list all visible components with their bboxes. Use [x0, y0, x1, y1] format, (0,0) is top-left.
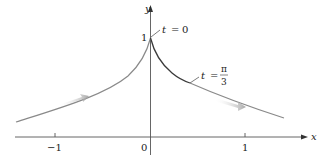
- y-tick-label-1: 1: [141, 32, 147, 43]
- x-axis-label: x: [311, 131, 317, 142]
- x-tick-label-neg1: −1: [47, 142, 62, 153]
- svg-text:t: t: [162, 24, 167, 35]
- curve-left-branch: [16, 38, 151, 122]
- svg-text:π: π: [221, 64, 227, 74]
- svg-text:=: =: [171, 24, 179, 35]
- svg-text:=: =: [210, 70, 218, 81]
- svg-text:3: 3: [221, 77, 227, 87]
- leader-tpi3: [190, 77, 199, 83]
- parametric-curve-diagram: y x 1 −1 1 0 t = 0 t = π 3: [0, 0, 334, 164]
- direction-arrow-right-icon: [214, 98, 246, 111]
- svg-text:t: t: [201, 70, 206, 81]
- svg-text:0: 0: [182, 24, 188, 35]
- annotation-t0: t = 0: [162, 24, 188, 35]
- origin-label: 0: [141, 142, 147, 153]
- x-axis-arrow-icon: [301, 135, 308, 140]
- annotation-t-pi-over-3: t = π 3: [201, 64, 228, 87]
- x-axis: [15, 133, 308, 140]
- leader-t0: [151, 30, 160, 37]
- direction-arrow-left-icon: [58, 94, 89, 107]
- y-axis-label: y: [144, 3, 151, 14]
- y-axis: [148, 5, 153, 155]
- x-tick-label-1: 1: [242, 142, 248, 153]
- curve-right-highlight: [151, 38, 191, 83]
- curve-right-branch: [190, 83, 284, 118]
